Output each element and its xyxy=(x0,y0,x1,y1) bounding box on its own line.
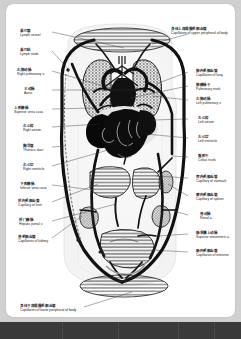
label-thoracic-duct: 胸导管 Thoracic duct xyxy=(23,145,41,152)
liver xyxy=(90,167,130,198)
label-superior-vena-cava: 上腔静脉 Superior vena cava xyxy=(14,107,40,114)
label-en: Superior mesenteric a. xyxy=(196,236,230,239)
label-superior-mesenteric-artery: 肠系膜上动脉 Superior mesenteric a. xyxy=(196,232,226,239)
label-capillary-of-liver: 肝内毛细血管 Capillary of liver xyxy=(18,200,39,207)
label-celiac-trunk: 腹腔干 Celiac trunk xyxy=(198,155,214,162)
label-hepatic-portal-vein: 肝门静脉 Hepatic portal v. xyxy=(19,219,40,226)
label-en: Lymph node xyxy=(20,53,38,56)
screenshot-viewport: 淋巴管 Lymph vessel 淋巴结 Lymph node 右肺动脉 Rig… xyxy=(0,0,241,339)
label-lower-peripheral-capillaries: 身体下部周围毛细血管 Capillaries of lower peripher… xyxy=(20,305,70,312)
kidney-right xyxy=(152,206,170,227)
label-left-pulmonary-vessel: 左肺动脉 Left pulmonary v. xyxy=(196,98,219,105)
label-en: Pulmonary trunk xyxy=(196,88,220,91)
stomach xyxy=(132,168,160,199)
label-upper-peripheral-capillaries: 身体上部周围毛细血管 Capillaries of upper peripher… xyxy=(171,28,222,35)
label-lymph-node: 淋巴结 Lymph node xyxy=(20,49,36,56)
label-capillaries-of-intestine: 肠内毛细血管 Capillaries of intestine xyxy=(196,250,225,257)
label-capillaries-of-kidney: 肾毛细血管 Capillaries of kidney xyxy=(18,236,45,243)
label-en: Right atrium xyxy=(23,129,41,132)
label-left-ventricle: 左心室 Left ventricle xyxy=(198,136,215,143)
label-renal-artery: 肾动脉 Renal a. xyxy=(200,213,211,220)
label-en: Capillaries of upper peripheral of body xyxy=(171,32,228,35)
label-left-atrium: 左心房 Left atrium xyxy=(198,117,212,124)
label-en: Capillary of stomach xyxy=(196,180,226,183)
label-right-ventricle: 右心室 Right ventricle xyxy=(23,164,42,171)
label-en: Capillary of liver xyxy=(18,204,42,207)
label-right-pulmonary-vessel: 右肺动脉 Right pulmonary v. xyxy=(17,69,42,76)
label-en: Left pulmonary v. xyxy=(196,102,222,105)
document-page: 淋巴管 Lymph vessel 淋巴结 Lymph node 右肺动脉 Rig… xyxy=(6,4,235,317)
bottom-taskbar[interactable] xyxy=(0,322,241,339)
spleen xyxy=(159,171,173,193)
label-en: Capillaries of kidney xyxy=(18,240,48,243)
label-pulmonary-trunk: 肺静脉干 Pulmonary trunk xyxy=(196,84,218,91)
label-en: Capillary of spleen xyxy=(196,198,224,201)
label-en: Superior vena cava xyxy=(14,111,43,114)
label-en: Capillaries of lower peripheral of body xyxy=(20,309,76,312)
label-en: Thoracic duct xyxy=(23,149,43,152)
label-right-atrium: 右心房 Right atrium xyxy=(23,125,39,132)
label-en: Lymph vessel xyxy=(20,34,40,37)
lymph-node-dot xyxy=(99,251,102,254)
label-en: Celiac trunk xyxy=(198,159,216,162)
label-capillary-of-stomach: 胃内毛细血管 Capillary of stomach xyxy=(196,176,223,183)
label-en: Capillaries of lung xyxy=(196,74,223,77)
label-aorta: 主动脉 Aorta xyxy=(24,88,33,95)
label-inferior-vena-cava: 下腔静脉 Inferior vena cava xyxy=(20,183,44,190)
label-capillary-of-spleen: 脾内毛细血管 Capillary of spleen xyxy=(196,194,221,201)
label-lymph-vessel: 淋巴管 Lymph vessel xyxy=(20,30,38,37)
lower-peripheral-capillaries xyxy=(80,275,168,297)
label-en: Right ventricle xyxy=(23,168,44,171)
label-capillaries-of-lung: 肺内毛细血管 Capillaries of lung xyxy=(196,70,220,77)
label-en: Capillaries of intestine xyxy=(196,254,229,257)
label-en: Aorta xyxy=(24,92,34,95)
label-en: Right pulmonary v. xyxy=(17,73,45,76)
label-en: Left ventricle xyxy=(198,140,217,143)
lymph-node-dot xyxy=(76,238,79,241)
label-en: Left atrium xyxy=(198,121,214,124)
label-en: Hepatic portal v. xyxy=(19,223,43,226)
label-en: Renal a. xyxy=(200,217,213,220)
label-en: Inferior vena cava xyxy=(20,187,47,190)
